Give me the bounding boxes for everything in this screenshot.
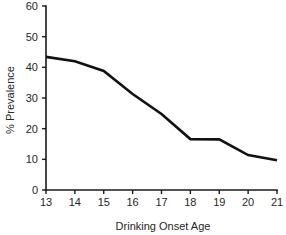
chart-container: 0102030405060 131415161718192021 Drinkin… [0, 0, 286, 235]
y-tick-label: 30 [26, 92, 38, 104]
y-tick-label: 60 [26, 0, 38, 12]
x-axis-group: 131415161718192021 [40, 190, 283, 208]
x-tick-label: 17 [155, 196, 167, 208]
y-tick-label: 50 [26, 31, 38, 43]
y-axis-title: % Prevalence [4, 66, 16, 134]
x-tick-label: 15 [98, 196, 110, 208]
y-tick-label: 40 [26, 61, 38, 73]
y-axis-group: 0102030405060 [26, 0, 46, 196]
x-tick-label: 13 [40, 196, 52, 208]
x-tick-label: 16 [127, 196, 139, 208]
x-tick-label: 14 [69, 196, 81, 208]
y-tick-label: 20 [26, 123, 38, 135]
y-tick-label: 0 [32, 184, 38, 196]
prevalence-series-line [46, 57, 277, 160]
prevalence-line-chart: 0102030405060 131415161718192021 Drinkin… [0, 0, 286, 235]
x-tick-label: 18 [184, 196, 196, 208]
x-axis-title: Drinking Onset Age [116, 220, 211, 232]
x-tick-label: 20 [242, 196, 254, 208]
x-tick-label: 21 [271, 196, 283, 208]
x-tick-labels: 131415161718192021 [40, 196, 283, 208]
y-tick-labels: 0102030405060 [26, 0, 38, 196]
x-tick-label: 19 [213, 196, 225, 208]
y-tick-label: 10 [26, 153, 38, 165]
